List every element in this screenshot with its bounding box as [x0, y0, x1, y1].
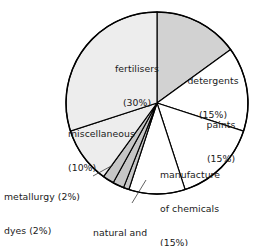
pie-label-small-slices-group: metallurgy (2%) dyes (2%) oil industry (… — [4, 168, 96, 246]
pie-label-fibres-line1: natural and — [93, 227, 181, 238]
pie-label-fertilisers-name: fertilisers — [96, 63, 178, 74]
pie-chart: fertilisers (30%) detergents (15%) paint… — [0, 0, 262, 246]
pie-label-metallurgy: metallurgy (2%) — [4, 191, 96, 202]
pie-label-detergents-name: detergents — [176, 75, 250, 86]
pie-label-miscellaneous-name: miscellaneous — [68, 128, 146, 139]
pie-label-manufacture-line1: manufacture — [160, 169, 240, 180]
pie-label-natural-and-synthetic-fibres: natural and synthetic fibres (10%) — [93, 204, 181, 246]
pie-label-dyes: dyes (2%) — [4, 225, 96, 236]
pie-label-paints-name: paints — [196, 119, 246, 130]
